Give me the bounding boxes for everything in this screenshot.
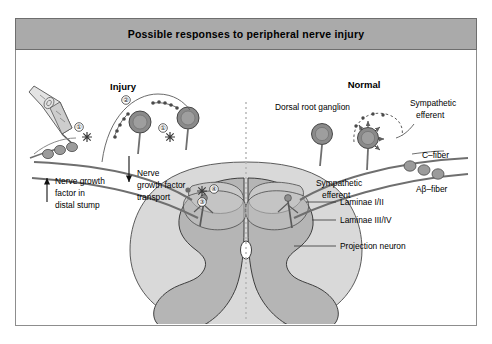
injury-heading: Injury xyxy=(110,81,137,92)
laminae-1-2-label: Laminae I/II xyxy=(340,197,384,207)
normal-heading: Normal xyxy=(348,79,381,90)
ngf-transport-line3: transport xyxy=(137,192,171,202)
sympathetic-sprout-right xyxy=(151,100,179,110)
injury-marker-one-left: ① xyxy=(75,123,92,142)
ngf-transport-line1: Nerve xyxy=(137,168,160,178)
drg-neuron-injury-right xyxy=(177,107,199,150)
drg-neuron-with-basket xyxy=(354,112,403,170)
page-title: Possible responses to peripheral nerve i… xyxy=(128,28,365,40)
figure-header: Possible responses to peripheral nerve i… xyxy=(15,18,477,50)
ngf-distal-line3: distal stump xyxy=(55,200,100,210)
marker-one-left: ① xyxy=(76,123,82,130)
figure-panel: Possible responses to peripheral nerve i… xyxy=(15,18,477,326)
symp-top-line1: Sympathetic xyxy=(410,98,456,108)
ngf-transport-line2: growth factor xyxy=(137,180,186,190)
marker-three: ③ xyxy=(199,198,205,205)
ngf-distal-line2: factor in xyxy=(55,188,85,198)
injury-marker-two: ② xyxy=(122,96,131,105)
drg-neuron-normal xyxy=(312,124,333,167)
ab-fiber-label: Aβ–fiber xyxy=(416,184,448,194)
ngf-distal-stump-label: Nerve growth factor in distal stump xyxy=(47,176,105,210)
c-fiber-label-group: C–fiber xyxy=(412,150,449,160)
drg-neuron-injury-left xyxy=(129,111,151,154)
nerve-injury-diagram: Injury xyxy=(16,50,476,324)
scalpel-icon xyxy=(29,86,76,147)
marker-two: ② xyxy=(123,96,129,103)
diagram-canvas: Injury xyxy=(15,50,477,326)
injury-marker-one-right: ① xyxy=(159,124,175,142)
projection-neuron-label: Projection neuron xyxy=(340,241,406,251)
sympathetic-sprout-left xyxy=(113,112,130,139)
marker-one-right: ① xyxy=(160,124,166,131)
ngf-distal-line1: Nerve growth xyxy=(55,176,105,186)
laminae-3-4-label: Laminae III/IV xyxy=(340,215,392,225)
symp-top-line2: efferent xyxy=(416,110,445,120)
symp-mid-line1: Sympathetic xyxy=(316,178,362,188)
marker-four: ④ xyxy=(211,185,217,192)
c-fiber-label: C–fiber xyxy=(422,150,449,160)
sympathetic-efferent-top-label: Sympathetic efferent xyxy=(396,98,456,138)
peripheral-myelinated-fiber xyxy=(404,161,444,179)
dorsal-root-ganglion-label: Dorsal root ganglion xyxy=(275,102,350,112)
